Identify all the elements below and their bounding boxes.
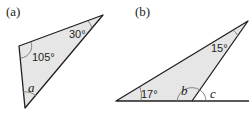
panel-b-label: (b) [135,4,150,19]
arc-c [200,90,206,101]
angle-30: 30° [69,28,86,40]
angle-17: 17° [141,88,158,100]
angle-b: b [181,83,188,98]
diagram-canvas: (a) 30° 105° a (b) 17° 15° b c [0,0,249,115]
panel-a: (a) 30° 105° a [6,4,103,108]
angle-a: a [28,80,35,95]
angle-105: 105° [32,51,55,63]
angle-15: 15° [211,42,228,54]
panel-a-label: (a) [6,4,20,19]
angle-c: c [210,86,216,101]
panel-b: (b) 17° 15° b c [116,4,249,101]
